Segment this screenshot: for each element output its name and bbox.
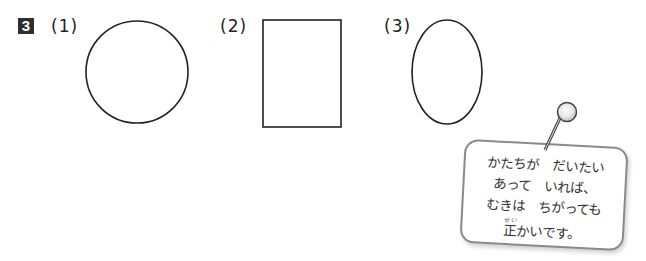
pushpin-icon xyxy=(0,0,646,261)
